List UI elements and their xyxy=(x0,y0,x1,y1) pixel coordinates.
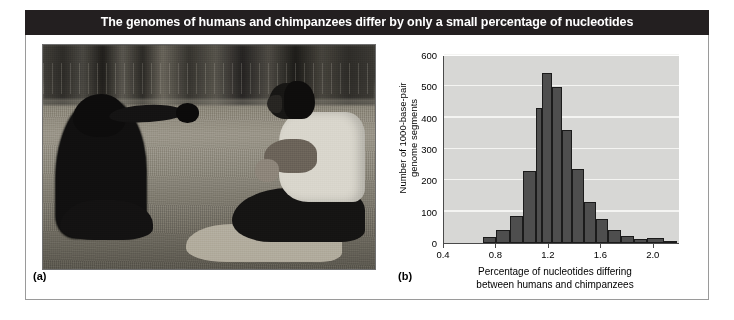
histogram-chart: Number of 1000-base-pair genome segments… xyxy=(390,35,709,300)
histogram-bar xyxy=(536,108,543,243)
plot-area xyxy=(443,56,679,244)
histogram-bar xyxy=(523,171,536,243)
photograph-frame xyxy=(42,44,376,270)
histogram-bar xyxy=(572,169,584,243)
panel-b-histogram: Number of 1000-base-pair genome segments… xyxy=(390,35,709,300)
histogram-bar xyxy=(647,238,664,243)
x-tick-label: 2.0 xyxy=(646,249,659,260)
x-axis-ticks: 0.40.81.21.62.0 xyxy=(443,244,679,266)
y-tick-label: 200 xyxy=(397,176,437,186)
histogram-bar xyxy=(483,237,496,243)
x-axis-label-line1: Percentage of nucleotides differing xyxy=(478,266,632,277)
x-tick xyxy=(443,244,444,248)
y-tick-label: 600 xyxy=(397,51,437,61)
x-tick-label: 0.8 xyxy=(489,249,502,260)
y-tick-label: 0 xyxy=(397,239,437,249)
histogram-bar xyxy=(542,73,551,243)
panel-a-photo xyxy=(25,35,390,300)
photograph xyxy=(43,45,375,269)
histogram-bar xyxy=(634,239,647,243)
histogram-bar xyxy=(584,202,596,243)
x-tick xyxy=(600,244,601,248)
histogram-bar xyxy=(596,219,608,243)
photo-background-fence xyxy=(43,63,375,94)
panel-label-a: (a) xyxy=(33,270,46,282)
human-face xyxy=(267,95,282,113)
gridline xyxy=(444,54,679,56)
figure-title: The genomes of humans and chimpanzees di… xyxy=(101,16,634,29)
y-tick-label: 500 xyxy=(397,82,437,92)
x-tick xyxy=(548,244,549,248)
panel-label-b: (b) xyxy=(398,270,412,282)
histogram-bar xyxy=(664,241,677,244)
x-tick xyxy=(495,244,496,248)
y-tick-label: 400 xyxy=(397,114,437,124)
x-axis-label-line2: between humans and chimpanzees xyxy=(476,279,633,290)
human-hair xyxy=(284,81,316,119)
x-tick xyxy=(653,244,654,248)
chimpanzee-hand xyxy=(176,103,199,123)
y-tick-label: 100 xyxy=(397,208,437,218)
x-tick-label: 0.4 xyxy=(436,249,449,260)
y-axis-label-line2: genome segments xyxy=(408,99,419,177)
histogram-bar xyxy=(552,87,562,243)
human-hand xyxy=(255,159,278,181)
histogram-bar xyxy=(608,230,621,243)
chimpanzee-lap xyxy=(60,200,153,240)
x-tick-label: 1.6 xyxy=(594,249,607,260)
histogram-bar xyxy=(510,216,523,243)
y-tick-label: 300 xyxy=(397,145,437,155)
x-axis-label: Percentage of nucleotides differing betw… xyxy=(410,266,700,291)
histogram-bar xyxy=(562,130,572,243)
x-tick-label: 1.2 xyxy=(541,249,554,260)
figure-title-bar: The genomes of humans and chimpanzees di… xyxy=(25,10,709,35)
histogram-bar xyxy=(496,230,509,243)
figure-root: The genomes of humans and chimpanzees di… xyxy=(0,0,734,320)
histogram-bar xyxy=(621,236,634,243)
